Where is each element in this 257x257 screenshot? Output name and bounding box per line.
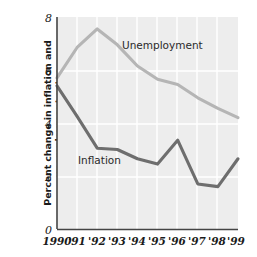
- x-tick-label: '93: [108, 235, 126, 247]
- y-tick-label: 8: [45, 12, 52, 25]
- y-axis-ticks: 8 6 4 2 0: [44, 12, 52, 238]
- x-tick-label: '95: [148, 235, 166, 247]
- annotation-unemployment: Unemployment: [122, 39, 203, 51]
- x-tick-label: '99: [227, 235, 246, 247]
- chart-figure: Percent change in inflation and unemploy…: [0, 0, 257, 257]
- y-tick-label: 4: [44, 118, 52, 131]
- x-tick-label: '97: [188, 235, 207, 247]
- x-tick-label: '92: [88, 235, 106, 247]
- x-tick-label: '96: [168, 235, 187, 247]
- y-tick-label: 2: [44, 171, 52, 184]
- y-tick-label: 6: [45, 65, 52, 78]
- plot-svg: 8 6 4 2 0 1990 '91 '92 '93 '94 '95 '96 '…: [0, 0, 257, 257]
- annotation-inflation: Inflation: [78, 154, 121, 166]
- x-tick-label: '91: [68, 235, 86, 247]
- x-tick-label: '94: [128, 235, 146, 247]
- x-tick-label: '98: [208, 235, 227, 247]
- x-axis-ticks: 1990 '91 '92 '93 '94 '95 '96 '97 '98 '99: [42, 235, 245, 247]
